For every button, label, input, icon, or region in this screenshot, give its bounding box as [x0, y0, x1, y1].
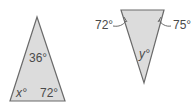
angle-label-x: x°	[15, 86, 27, 100]
triangle-1: 36° x° 72°	[10, 17, 65, 101]
angle-label-75: 75°	[173, 18, 191, 32]
angle-label-72-bottom: 72°	[40, 86, 58, 100]
diagram-canvas: 36° x° 72° 72° 75° y°	[0, 0, 195, 112]
leader-line-left	[113, 21, 126, 26]
triangle-2: 72° 75° y°	[95, 10, 191, 83]
angle-label-y: y°	[138, 47, 150, 61]
angle-label-72-top: 72°	[95, 18, 113, 32]
angle-label-36: 36°	[29, 51, 47, 65]
